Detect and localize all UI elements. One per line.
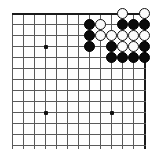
grid-line-horizontal bbox=[12, 68, 146, 69]
go-board-diagram bbox=[0, 0, 162, 149]
black-stone[interactable] bbox=[84, 19, 95, 30]
white-stone[interactable] bbox=[117, 8, 128, 19]
grid-line-horizontal bbox=[12, 123, 146, 124]
white-stone[interactable] bbox=[139, 8, 150, 19]
star-point bbox=[110, 111, 114, 115]
white-stone[interactable] bbox=[117, 41, 128, 52]
white-stone[interactable] bbox=[106, 30, 117, 41]
white-stone[interactable] bbox=[117, 30, 128, 41]
grid-line-vertical bbox=[45, 13, 46, 149]
grid-line-vertical bbox=[34, 13, 35, 149]
black-stone[interactable] bbox=[106, 41, 117, 52]
grid-line-vertical bbox=[12, 13, 13, 149]
black-stone[interactable] bbox=[139, 52, 150, 63]
grid-line-vertical bbox=[67, 13, 68, 149]
white-stone[interactable] bbox=[128, 41, 139, 52]
black-stone[interactable] bbox=[84, 30, 95, 41]
black-stone[interactable] bbox=[117, 52, 128, 63]
black-stone[interactable] bbox=[128, 19, 139, 30]
star-point bbox=[44, 45, 48, 49]
grid-line-horizontal bbox=[12, 134, 146, 135]
grid-line-vertical bbox=[23, 13, 24, 149]
black-stone[interactable] bbox=[84, 41, 95, 52]
black-stone[interactable] bbox=[117, 19, 128, 30]
black-stone[interactable] bbox=[128, 52, 139, 63]
grid-line-vertical bbox=[78, 13, 79, 149]
grid-line-horizontal bbox=[12, 145, 146, 146]
white-stone[interactable] bbox=[139, 30, 150, 41]
board-surface[interactable] bbox=[0, 0, 162, 149]
grid-line-vertical bbox=[56, 13, 57, 149]
white-stone[interactable] bbox=[128, 30, 139, 41]
white-stone[interactable] bbox=[95, 19, 106, 30]
grid-line-horizontal bbox=[12, 112, 146, 113]
black-stone[interactable] bbox=[139, 19, 150, 30]
grid-line-horizontal bbox=[12, 90, 146, 91]
black-stone[interactable] bbox=[139, 41, 150, 52]
grid-line-horizontal bbox=[12, 101, 146, 102]
grid-line-horizontal bbox=[12, 79, 146, 80]
star-point bbox=[44, 111, 48, 115]
white-stone[interactable] bbox=[95, 30, 106, 41]
black-stone[interactable] bbox=[106, 52, 117, 63]
